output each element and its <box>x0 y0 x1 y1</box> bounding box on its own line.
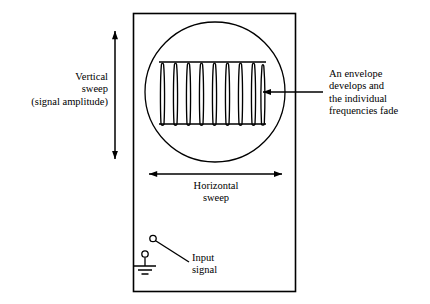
signal-trace <box>160 63 264 125</box>
input-signal-label: Input signal <box>192 252 252 277</box>
vertical-sweep-label: Vertical sweep (signal amplitude) <box>20 71 108 108</box>
switch-open-terminal-icon <box>150 235 156 241</box>
input-signal-leader-line <box>156 241 189 262</box>
envelope-annotation-label: An envelope develops and the individual … <box>329 68 429 118</box>
input-signal-switch <box>134 235 189 274</box>
switch-pivot-terminal-icon <box>142 251 148 257</box>
diagram-canvas: Vertical sweep (signal amplitude) Horizo… <box>0 0 430 304</box>
horizontal-sweep-label: Horizontal sweep <box>155 180 277 205</box>
oscilloscope-case <box>134 14 296 292</box>
